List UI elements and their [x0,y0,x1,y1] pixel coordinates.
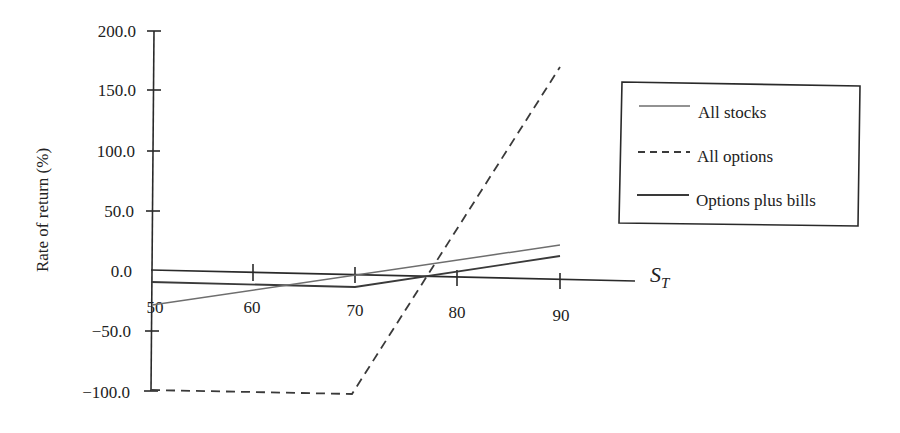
y-ticks [144,31,161,391]
y-tick-label: −100.0 [82,383,130,402]
series-all-stocks [152,245,560,305]
x-tick-label: 80 [449,303,466,322]
legend: All stocks All options Options plus bill… [619,82,860,226]
y-tick-label: 50.0 [104,202,134,221]
x-tick-label: 90 [553,306,570,325]
x-tick-label: 70 [347,301,364,320]
x-axis [151,270,635,281]
x-tick-labels: 50 60 70 80 90 [147,298,570,325]
y-axis-label: Rate of return (%) [33,148,52,272]
y-tick-label: −50.0 [92,322,131,341]
x-tick-label: 60 [244,298,261,317]
series-all-options [151,67,560,394]
chart-svg: 200.0 150.0 100.0 50.0 0.0 −50.0 −100.0 … [0,0,900,433]
legend-label-all-stocks: All stocks [698,103,766,122]
y-tick-label: 150.0 [98,81,136,100]
legend-label-all-options: All options [697,147,773,166]
y-tick-label: 200.0 [98,22,136,41]
x-tick-label: 50 [147,298,164,317]
y-tick-label: 100.0 [97,142,135,161]
y-tick-labels: 200.0 150.0 100.0 50.0 0.0 −50.0 −100.0 [82,22,136,402]
legend-label-options-plus-bills: Options plus bills [696,191,816,210]
x-axis-label: ST [650,262,671,291]
y-tick-label: 0.0 [111,262,132,281]
